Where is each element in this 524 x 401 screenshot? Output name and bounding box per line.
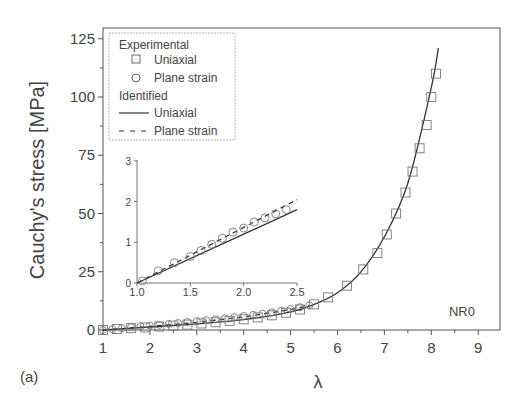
y-tick-label: 50	[78, 205, 95, 222]
legend-label: Uniaxial	[154, 106, 197, 120]
x-tick-label: 7	[380, 339, 388, 356]
inset-plane-strain-marker	[218, 234, 226, 242]
inset-x-tick-label: 1.5	[183, 286, 198, 298]
legend-title-identified: Identified	[119, 89, 168, 103]
y-tick-label: 125	[70, 30, 95, 47]
inset-x-tick-label: 1.0	[129, 286, 144, 298]
inset-x-tick-label: 2.5	[289, 286, 304, 298]
x-tick-label: 5	[286, 339, 294, 356]
y-axis-label: Cauchy's stress [MPa]	[26, 81, 48, 279]
inset-uniaxial-line	[137, 210, 297, 283]
x-tick-label: 8	[427, 339, 435, 356]
inset-plane-strain-marker	[261, 214, 269, 222]
x-tick-label: 4	[240, 339, 248, 356]
y-tick-label: 75	[78, 146, 95, 163]
legend-label: Plane strain	[154, 124, 217, 138]
inset-y-tick-label: 3	[125, 156, 131, 167]
panel-label: (a)	[20, 368, 38, 385]
y-tick-label: 0	[87, 321, 95, 338]
x-tick-label: 2	[146, 339, 154, 356]
x-axis-label: λ	[314, 372, 323, 392]
plane-strain-marker	[212, 316, 219, 323]
legend-title-experimental: Experimental	[119, 38, 189, 52]
inset-y-tick-label: 1	[125, 237, 131, 248]
inset-y-tick-label: 2	[125, 197, 131, 208]
x-tick-label: 6	[333, 339, 341, 356]
chart-svg: 1234567890255075100125λCauchy's stress […	[0, 0, 524, 401]
inset-plane-strain-marker	[250, 218, 258, 226]
inset-plane-strain-marker	[282, 206, 290, 214]
x-tick-label: 9	[474, 339, 482, 356]
x-tick-label: 3	[193, 339, 201, 356]
annotation-nr0: NR0	[449, 304, 475, 319]
y-tick-label: 100	[70, 88, 95, 105]
inset-plane-strain-line	[137, 200, 297, 283]
x-tick-label: 1	[99, 339, 107, 356]
legend-label: Plane strain	[154, 71, 217, 85]
inset-x-tick-label: 2.0	[236, 286, 251, 298]
y-tick-label: 25	[78, 263, 95, 280]
uniaxial-marker	[431, 69, 440, 78]
legend-label: Uniaxial	[154, 53, 197, 67]
uniaxial-marker	[324, 293, 333, 302]
plane-strain-marker	[240, 313, 247, 320]
